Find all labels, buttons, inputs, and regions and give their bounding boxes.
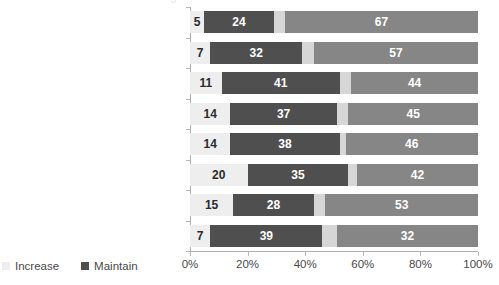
bar-segment-maintain: 32	[210, 42, 302, 64]
bar-segment-value: 46	[346, 133, 478, 155]
bar-segment-gap	[274, 11, 286, 33]
x-axis-tick	[420, 252, 421, 256]
x-axis-tick-label: 20%	[226, 258, 270, 270]
bar-segment-gap	[337, 103, 349, 125]
bar-segment-value: 14	[190, 103, 230, 125]
bar-segment-maintain: 39	[210, 225, 322, 247]
bar-segment-increase: 5	[190, 11, 204, 33]
bar-row: Media events73257	[190, 42, 478, 64]
bar-segment-gap	[348, 164, 357, 186]
bar-segment-increase: 15	[190, 194, 233, 216]
bar-segment-value	[314, 194, 326, 216]
bar-segment-value: 20	[190, 164, 248, 186]
bar-segment-value	[337, 103, 349, 125]
bar-segment-value: 7	[190, 225, 210, 247]
bar-segment-value	[322, 225, 336, 247]
bar-segment-increase: 20	[190, 164, 248, 186]
bar-row: Road shows152853	[190, 194, 478, 216]
bar-segment-value: 28	[233, 194, 314, 216]
bar-segment-maintain: 37	[230, 103, 337, 125]
bar-segment-value: 57	[314, 42, 478, 64]
bar-segment-value: 45	[348, 103, 478, 125]
bar-segment-value: 41	[222, 72, 340, 94]
bar-segment-maintain: 24	[204, 11, 273, 33]
x-axis-line	[190, 251, 478, 252]
stacked-bar-chart: g Private trade shows52467Media events73…	[0, 0, 499, 285]
legend-label-increase: Increase	[15, 260, 59, 272]
legend-item-maintain[interactable]: Maintain	[81, 260, 137, 272]
bar-segment-gap	[340, 72, 352, 94]
bar-segment-value: 15	[190, 194, 233, 216]
x-axis-tick	[305, 252, 306, 256]
bar-segment-value: 37	[230, 103, 337, 125]
cropped-chart-title: g	[0, 0, 499, 6]
y-axis-tick	[186, 68, 190, 69]
y-axis-tick	[186, 7, 190, 8]
bar-segment-gap	[322, 225, 336, 247]
bar-row: Product launches73932	[190, 225, 478, 247]
y-axis-tick	[186, 129, 190, 130]
bar-segment-decrease: 42	[357, 164, 478, 186]
bar-segment-maintain: 41	[222, 72, 340, 94]
bar-row: User conferences143745	[190, 103, 478, 125]
bar-segment-value	[348, 164, 357, 186]
x-axis-tick-label: 40%	[283, 258, 327, 270]
bar-segment-increase: 14	[190, 133, 230, 155]
bar-segment-value: 38	[230, 133, 339, 155]
x-axis-tick-label: 80%	[398, 258, 442, 270]
bar-segment-value: 14	[190, 133, 230, 155]
y-axis-tick	[186, 221, 190, 222]
legend-swatch-maintain	[81, 262, 89, 270]
bar-segment-increase: 11	[190, 72, 222, 94]
bar-segment-decrease: 44	[351, 72, 478, 94]
legend-item-increase[interactable]: Increase	[2, 260, 59, 272]
bar-segment-maintain: 38	[230, 133, 339, 155]
bar-segment-value: 35	[248, 164, 349, 186]
chart-legend: Increase Maintain	[2, 258, 160, 274]
x-axis-tick	[363, 252, 364, 256]
bar-segment-value: 7	[190, 42, 210, 64]
bar-segment-value: 32	[337, 225, 478, 247]
y-axis-tick	[186, 99, 190, 100]
y-axis-tick	[186, 160, 190, 161]
bar-row: Private trade shows52467	[190, 11, 478, 33]
bar-row: Dealer or distributor meetings143846	[190, 133, 478, 155]
y-axis-tick	[186, 190, 190, 191]
x-axis-tick	[248, 252, 249, 256]
bar-segment-decrease: 32	[337, 225, 478, 247]
bar-segment-maintain: 35	[248, 164, 349, 186]
x-axis-tick-label: 0%	[168, 258, 212, 270]
bar-segment-decrease: 46	[346, 133, 478, 155]
y-axis-tick	[186, 38, 190, 39]
bar-segment-value: 24	[204, 11, 273, 33]
bar-segment-value: 32	[210, 42, 302, 64]
bar-segment-value: 11	[190, 72, 222, 94]
bar-segment-maintain: 28	[233, 194, 314, 216]
bar-segment-increase: 14	[190, 103, 230, 125]
bar-segment-value: 39	[210, 225, 322, 247]
bar-row: VIP customer events203542	[190, 164, 478, 186]
bar-segment-increase: 7	[190, 42, 210, 64]
x-axis-tick-label: 60%	[341, 258, 385, 270]
bar-segment-decrease: 45	[348, 103, 478, 125]
bar-segment-value	[340, 72, 352, 94]
legend-label-maintain: Maintain	[94, 260, 137, 272]
bar-segment-gap	[302, 42, 314, 64]
bar-segment-value: 67	[285, 11, 478, 33]
bar-segment-value: 53	[325, 194, 478, 216]
bar-row: Hospitality events114144	[190, 72, 478, 94]
bar-segment-decrease: 57	[314, 42, 478, 64]
x-axis-tick	[478, 252, 479, 256]
bar-segment-value: 5	[190, 11, 204, 33]
bar-segment-decrease: 67	[285, 11, 478, 33]
x-axis-tick-label: 100%	[456, 258, 499, 270]
bar-segment-gap	[314, 194, 326, 216]
x-axis-tick	[190, 252, 191, 256]
bar-segment-decrease: 53	[325, 194, 478, 216]
bar-segment-value	[274, 11, 286, 33]
bar-segment-value: 42	[357, 164, 478, 186]
cropped-chart-title-text: g	[170, 0, 177, 3]
bar-segment-value	[302, 42, 314, 64]
bar-segment-increase: 7	[190, 225, 210, 247]
bar-segment-value: 44	[351, 72, 478, 94]
